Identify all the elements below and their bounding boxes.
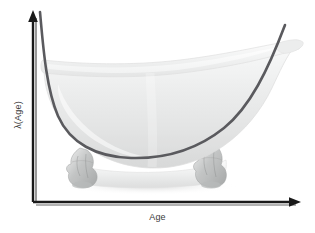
x-axis-label: Age (0, 212, 315, 222)
tub-left-foot (67, 148, 98, 189)
figure-canvas: λ(Age) Age (0, 0, 315, 233)
tub-sheen (150, 73, 153, 167)
bathtub-curve-figure (0, 0, 315, 233)
clawfoot-bathtub-illustration (41, 40, 303, 195)
y-axis-label: λ(Age) (13, 79, 23, 151)
y-axis-arrowhead (28, 10, 38, 22)
tub-rim-tail (276, 40, 303, 53)
